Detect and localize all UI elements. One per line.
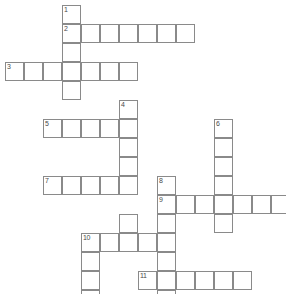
cell-letter <box>120 25 137 42</box>
cell-letter <box>196 272 213 289</box>
crossword-cell[interactable] <box>119 24 138 43</box>
crossword-cell[interactable]: 1 <box>62 5 81 24</box>
cell-letter <box>82 253 99 270</box>
crossword-cell[interactable] <box>81 252 100 271</box>
crossword-cell[interactable] <box>43 62 62 81</box>
crossword-cell[interactable] <box>214 195 233 214</box>
crossword-cell[interactable] <box>233 195 252 214</box>
crossword-cell[interactable] <box>100 233 119 252</box>
cell-letter <box>158 196 175 213</box>
cell-letter <box>63 44 80 61</box>
crossword-cell[interactable] <box>119 62 138 81</box>
cell-letter <box>234 272 251 289</box>
cell-letter <box>82 120 99 137</box>
crossword-cell[interactable] <box>81 271 100 290</box>
crossword-cell[interactable]: 9 <box>157 195 176 214</box>
crossword-cell[interactable] <box>119 176 138 195</box>
cell-letter <box>120 177 137 194</box>
crossword-cell[interactable] <box>62 119 81 138</box>
crossword-cell[interactable] <box>214 271 233 290</box>
crossword-cell[interactable]: 3 <box>5 62 24 81</box>
crossword-cell[interactable] <box>271 195 286 214</box>
crossword-cell[interactable] <box>100 119 119 138</box>
cell-letter <box>82 272 99 289</box>
cell-letter <box>44 120 61 137</box>
cell-letter <box>25 63 42 80</box>
cell-letter <box>215 196 232 213</box>
crossword-cell[interactable] <box>176 24 195 43</box>
cell-letter <box>101 120 118 137</box>
cell-letter <box>253 196 270 213</box>
cell-letter <box>101 234 118 251</box>
crossword-cell[interactable] <box>214 138 233 157</box>
crossword-cell[interactable] <box>81 24 100 43</box>
crossword-cell[interactable]: 2 <box>62 24 81 43</box>
crossword-cell[interactable] <box>119 119 138 138</box>
cell-letter <box>120 215 137 232</box>
crossword-cell[interactable] <box>100 176 119 195</box>
crossword-cell[interactable] <box>176 271 195 290</box>
crossword-cell[interactable] <box>119 157 138 176</box>
crossword-cell[interactable] <box>62 81 81 100</box>
crossword-cell[interactable]: 11 <box>138 271 157 290</box>
crossword-cell[interactable] <box>81 290 100 294</box>
crossword-cell[interactable] <box>81 176 100 195</box>
crossword-cell[interactable] <box>138 24 157 43</box>
cell-letter <box>63 63 80 80</box>
crossword-cell[interactable]: 4 <box>119 100 138 119</box>
crossword-cell[interactable] <box>195 195 214 214</box>
crossword-cell[interactable]: 10 <box>81 233 100 252</box>
crossword-cell[interactable] <box>157 252 176 271</box>
cell-letter <box>139 234 156 251</box>
crossword-cell[interactable] <box>100 62 119 81</box>
crossword-cell[interactable]: 6 <box>214 119 233 138</box>
cell-letter <box>63 25 80 42</box>
crossword-cell[interactable] <box>81 62 100 81</box>
crossword-cell[interactable] <box>195 271 214 290</box>
crossword-cell[interactable]: 5 <box>43 119 62 138</box>
cell-letter <box>44 63 61 80</box>
crossword-cell[interactable] <box>62 62 81 81</box>
cell-letter <box>82 25 99 42</box>
crossword-cell[interactable]: 8 <box>157 176 176 195</box>
crossword-cell[interactable] <box>119 214 138 233</box>
cell-letter <box>158 234 175 251</box>
crossword-grid[interactable]: 123456789101112 <box>0 0 286 294</box>
crossword-cell[interactable] <box>119 233 138 252</box>
cell-letter <box>215 120 232 137</box>
crossword-cell[interactable] <box>214 157 233 176</box>
cell-letter <box>215 139 232 156</box>
crossword-cell[interactable] <box>119 138 138 157</box>
crossword-cell[interactable] <box>214 214 233 233</box>
crossword-cell[interactable] <box>157 214 176 233</box>
crossword-cell[interactable] <box>214 176 233 195</box>
crossword-cell[interactable]: 7 <box>43 176 62 195</box>
crossword-cell[interactable] <box>62 176 81 195</box>
cell-letter <box>158 25 175 42</box>
cell-letter <box>158 177 175 194</box>
cell-letter <box>120 120 137 137</box>
cell-letter <box>120 139 137 156</box>
crossword-cell[interactable] <box>157 290 176 294</box>
crossword-cell[interactable] <box>252 195 271 214</box>
crossword-cell[interactable] <box>138 233 157 252</box>
crossword-cell[interactable] <box>157 271 176 290</box>
crossword-cell[interactable] <box>233 271 252 290</box>
crossword-cell[interactable] <box>24 62 43 81</box>
crossword-cell[interactable] <box>157 233 176 252</box>
cell-letter <box>158 215 175 232</box>
cell-letter <box>6 63 23 80</box>
crossword-cell[interactable] <box>62 43 81 62</box>
cell-letter <box>215 177 232 194</box>
crossword-cell[interactable] <box>176 195 195 214</box>
crossword-cell[interactable] <box>100 24 119 43</box>
cell-letter <box>44 177 61 194</box>
cell-letter <box>120 101 137 118</box>
cell-letter <box>139 25 156 42</box>
cell-letter <box>82 63 99 80</box>
cell-letter <box>120 234 137 251</box>
cell-letter <box>82 177 99 194</box>
crossword-cell[interactable] <box>81 119 100 138</box>
crossword-cell[interactable] <box>157 24 176 43</box>
cell-letter <box>82 234 99 251</box>
